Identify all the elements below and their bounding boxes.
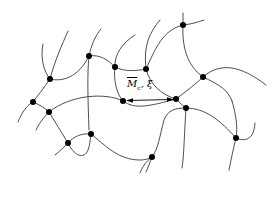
chain-segment [33,79,50,102]
chain-segment [49,96,123,112]
chain-segment [68,134,91,143]
crosslink-node [200,74,206,80]
crosslink-node [149,154,155,160]
chain-segment [115,35,135,67]
crosslink-node [65,140,71,146]
chain-segment [115,67,146,71]
mesh-size-label: Mc, ξ [127,79,153,91]
crosslink-node [180,22,186,28]
crosslink-node [183,105,189,111]
chain-segment [183,20,204,25]
chain-segment [88,56,89,130]
crosslink-node [173,96,179,102]
chain-segment [68,134,91,156]
length-arrow [126,97,174,103]
chain-segment [229,138,236,170]
crosslink-nodes [30,22,239,160]
polymer-network-diagram [0,0,277,206]
molecular-weight-symbol: M [127,78,137,89]
crosslink-node [143,66,149,72]
crosslink-node [112,64,118,70]
crosslink-node [46,109,52,115]
chain-segment [203,77,232,101]
crosslink-node [120,98,126,104]
chain-segment [182,108,186,168]
chain-segment [203,68,266,85]
chain-segment [89,56,115,67]
chain-segment [49,112,68,143]
chain-segment [183,25,203,77]
chain-segments [18,13,266,173]
chain-segment [18,102,33,122]
chain-segment [36,112,49,130]
chain-segment [42,44,50,79]
crosslink-node [88,131,94,137]
chain-segment [89,29,101,56]
chain-segment [50,31,68,79]
chain-segment [152,108,186,157]
chain-segment [232,101,237,138]
arrowhead-left-icon [126,98,133,103]
crosslink-node [233,135,239,141]
chain-segment [114,67,123,101]
chain-segment [91,134,152,160]
crosslink-node [30,99,36,105]
mesh-size-symbol: ξ [147,78,153,89]
chain-segment [176,77,203,99]
crosslink-node [86,53,92,59]
crosslink-node [47,76,53,82]
chain-segment [186,108,236,138]
